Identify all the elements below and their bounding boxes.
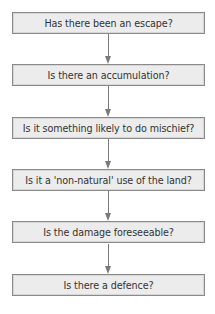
step-box-non-natural-use: Is it a 'non-natural' use of the land? xyxy=(12,169,205,191)
step-label: Is it something likely to do mischief? xyxy=(23,123,194,134)
step-label: Has there been an escape? xyxy=(44,18,172,29)
step-box-escape: Has there been an escape? xyxy=(12,12,205,34)
step-label: Is the damage foreseeable? xyxy=(43,227,174,238)
step-box-foreseeable-damage: Is the damage foreseeable? xyxy=(12,221,205,243)
step-box-accumulation: Is there an accumulation? xyxy=(12,64,205,86)
step-box-mischief: Is it something likely to do mischief? xyxy=(12,117,205,139)
step-label: Is it a 'non-natural' use of the land? xyxy=(25,175,192,186)
arrow-down-icon xyxy=(107,34,110,64)
arrow-down-icon xyxy=(107,191,110,221)
arrow-down-icon xyxy=(107,244,110,274)
arrow-down-icon xyxy=(107,139,110,169)
arrow-down-icon xyxy=(107,86,110,117)
flowchart: Has there been an escape? Is there an ac… xyxy=(0,0,215,314)
step-box-defence: Is there a defence? xyxy=(12,274,205,296)
step-label: Is there a defence? xyxy=(64,280,154,291)
step-label: Is there an accumulation? xyxy=(48,70,170,81)
